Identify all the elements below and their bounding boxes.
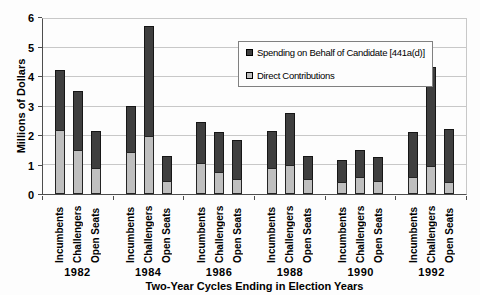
category-label: Incumbents — [196, 201, 207, 263]
category-label-slot: Incumbents — [267, 201, 277, 263]
bar-segment-direct-contributions — [337, 182, 347, 194]
bar-segment-direct-contributions — [162, 181, 172, 194]
bar-segment-spending — [285, 113, 295, 166]
category-label: Open Seats — [302, 201, 313, 263]
bar-segment-direct-contributions — [285, 165, 295, 194]
bar-1984-challengers — [144, 19, 154, 194]
bar-1984-open-seats — [162, 19, 172, 194]
bar-segment-spending — [267, 131, 277, 169]
bar-segment-direct-contributions — [408, 177, 418, 195]
bar-segment-spending — [196, 122, 206, 164]
category-label-group-1992: IncumbentsChallengersOpen Seats — [396, 201, 467, 263]
y-tick-label: 0 — [28, 190, 34, 201]
legend-swatch-spending-icon — [246, 49, 253, 56]
category-label-slot: Incumbents — [409, 201, 419, 263]
category-label: Open Seats — [444, 201, 455, 263]
year-label-1990: 1990 — [325, 266, 396, 278]
category-label-group-1990: IncumbentsChallengersOpen Seats — [325, 201, 396, 263]
bar-segment-direct-contributions — [196, 163, 206, 194]
bar-segment-spending — [303, 156, 313, 181]
bar-segment-spending — [337, 160, 347, 183]
category-label-slot: Challengers — [72, 201, 82, 263]
bar-segment-direct-contributions — [355, 177, 365, 195]
gridline — [43, 135, 466, 136]
legend-row-direct: Direct Contributions — [246, 71, 425, 81]
bar-segment-direct-contributions — [91, 168, 101, 194]
category-label-slot: Challengers — [285, 201, 295, 263]
category-label-slot: Open Seats — [161, 201, 171, 263]
bar-segment-spending — [232, 140, 242, 181]
y-tick-label: 4 — [28, 72, 34, 83]
y-tick-label: 5 — [28, 42, 34, 53]
bar-segment-spending — [91, 131, 101, 169]
year-label-1986: 1986 — [184, 266, 255, 278]
category-label: Incumbents — [408, 201, 419, 263]
bar-segment-direct-contributions — [303, 179, 313, 194]
bar-segment-direct-contributions — [373, 181, 383, 194]
year-label-1984: 1984 — [113, 266, 184, 278]
legend-label-spending: Spending on Behalf of Candidate [441a(d)… — [257, 48, 425, 58]
x-tick-cell — [396, 196, 467, 200]
legend-label-direct: Direct Contributions — [257, 71, 334, 81]
category-label-slot: Incumbents — [338, 201, 348, 263]
bar-segment-spending — [355, 150, 365, 178]
bar-category-labels: IncumbentsChallengersOpen SeatsIncumbent… — [42, 201, 467, 263]
bar-segment-direct-contributions — [232, 179, 242, 194]
stacked-bar-chart-figure: Millions of Dollars 0123456 Spending on … — [0, 0, 480, 295]
bar-segment-direct-contributions — [214, 172, 224, 194]
bar-1986-challengers — [214, 19, 224, 194]
category-label: Challengers — [284, 201, 295, 263]
x-axis-tick-marks — [42, 196, 467, 200]
category-label-slot: Challengers — [143, 201, 153, 263]
bar-segment-direct-contributions — [267, 168, 277, 194]
category-label: Challengers — [214, 201, 225, 263]
category-label-slot: Challengers — [427, 201, 437, 263]
x-axis-area: IncumbentsChallengersOpen SeatsIncumbent… — [42, 196, 467, 278]
x-tick-cell — [114, 196, 185, 200]
y-axis-tick-labels: 0123456 — [0, 18, 34, 195]
category-label-slot: Open Seats — [232, 201, 242, 263]
legend-row-spending: Spending on Behalf of Candidate [441a(d)… — [246, 48, 425, 58]
bar-1982-open-seats — [91, 19, 101, 194]
gridline — [43, 164, 466, 165]
x-tick-cell — [255, 196, 326, 200]
y-tick-label: 3 — [28, 101, 34, 112]
category-label-slot: Open Seats — [303, 201, 313, 263]
bar-group-1984 — [114, 19, 185, 194]
category-label: Incumbents — [266, 201, 277, 263]
bar-segment-spending — [162, 156, 172, 182]
y-tick-label: 2 — [28, 131, 34, 142]
bar-1984-incumbents — [126, 19, 136, 194]
year-labels: 198219841986198819901992 — [42, 266, 467, 278]
category-label-group-1982: IncumbentsChallengersOpen Seats — [42, 201, 113, 263]
bar-1982-challengers — [73, 19, 83, 194]
category-label-slot: Open Seats — [90, 201, 100, 263]
bar-segment-direct-contributions — [55, 130, 65, 194]
bar-segment-spending — [73, 91, 83, 151]
category-label: Challengers — [72, 201, 83, 263]
category-label-slot: Challengers — [356, 201, 366, 263]
category-label: Challengers — [355, 201, 366, 263]
category-label: Incumbents — [125, 201, 136, 263]
bar-segment-spending — [55, 70, 65, 131]
y-tick-label: 1 — [28, 160, 34, 171]
bar-segment-direct-contributions — [73, 150, 83, 194]
x-tick-cell — [42, 196, 114, 200]
bar-segment-spending — [214, 132, 224, 173]
bar-1986-incumbents — [196, 19, 206, 194]
category-label: Challengers — [143, 201, 154, 263]
category-label: Open Seats — [90, 201, 101, 263]
bar-1982-incumbents — [55, 19, 65, 194]
bar-segment-spending — [126, 106, 136, 153]
year-label-1992: 1992 — [396, 266, 467, 278]
y-tick-label: 6 — [28, 13, 34, 24]
category-label: Open Seats — [161, 201, 172, 263]
category-label: Open Seats — [232, 201, 243, 263]
category-label: Incumbents — [54, 201, 65, 263]
x-tick-cell — [184, 196, 255, 200]
bar-segment-spending — [373, 157, 383, 182]
category-label-slot: Incumbents — [125, 201, 135, 263]
legend: Spending on Behalf of Candidate [441a(d)… — [238, 41, 433, 87]
x-tick-cell — [326, 196, 397, 200]
bar-segment-spending — [444, 129, 454, 183]
